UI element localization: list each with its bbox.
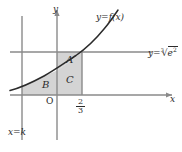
shaded-region-b (22, 71, 57, 96)
fraction-numerator: 2 (76, 98, 85, 106)
fraction-denominator: 3 (76, 107, 85, 115)
x-axis-label: x (170, 95, 175, 104)
cube-root-expression: 3√e2 (161, 46, 178, 58)
region-label-b: B (42, 80, 49, 90)
region-label-c: C (66, 75, 74, 85)
y-axis-label: y (53, 5, 58, 14)
x-tick-label-two-thirds: 2 3 (76, 98, 85, 116)
curve-label: y=f(x) (96, 13, 124, 22)
vertical-line-label: x=k (8, 128, 26, 137)
coordinate-plane-svg (0, 0, 182, 152)
origin-label: O (46, 97, 53, 106)
radicand-exponent: 2 (173, 46, 177, 53)
horizontal-line-label: y=3√e2 (148, 46, 178, 58)
horizontal-line-label-lhs: y= (148, 48, 161, 58)
radicand: e2 (168, 46, 178, 58)
graph-figure: y x O y=f(x) y=3√e2 x=k A B C 2 3 (0, 0, 182, 152)
region-label-a: A (66, 55, 73, 65)
